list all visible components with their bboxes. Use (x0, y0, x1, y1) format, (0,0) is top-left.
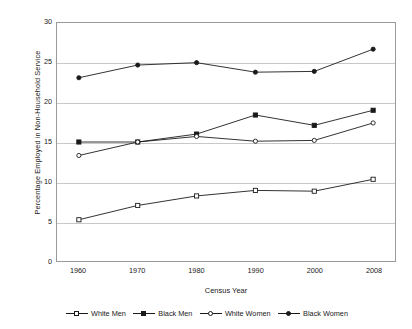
y-tick-label: 5 (30, 218, 52, 226)
x-tick-label: 1980 (176, 266, 216, 275)
legend-item-black-men[interactable]: Black Men (133, 309, 192, 318)
legend-marker-icon (66, 309, 88, 318)
y-tick-label: 0 (30, 258, 52, 266)
legend-item-black-women[interactable]: Black Women (278, 309, 348, 318)
data-point-marker (136, 63, 140, 67)
data-point-marker (371, 121, 375, 125)
y-tick-label: 15 (30, 138, 52, 146)
data-point-marker (371, 108, 375, 112)
data-point-marker (194, 194, 198, 198)
y-tick-label: 20 (30, 98, 52, 106)
y-axis-tick-labels: 051015202530 (26, 0, 52, 329)
legend-marker-icon (133, 309, 155, 318)
data-point-marker (136, 140, 140, 144)
data-point-marker (312, 123, 316, 127)
x-tick-label: 1960 (58, 266, 98, 275)
y-tick-label: 10 (30, 178, 52, 186)
data-point-marker (194, 134, 198, 138)
legend-marker-icon (200, 309, 222, 318)
data-point-marker (77, 218, 81, 222)
data-point-marker (312, 69, 316, 73)
series-line (79, 110, 373, 142)
legend-label: Black Women (303, 309, 348, 318)
x-tick-label: 1970 (117, 266, 157, 275)
series-line (79, 49, 373, 78)
y-tick-label: 30 (30, 18, 52, 26)
legend-marker-icon (278, 309, 300, 318)
data-point-marker (371, 177, 375, 181)
series-lines (57, 23, 395, 261)
data-point-marker (253, 139, 257, 143)
x-axis-tick-labels: 196019701980199020002008 (56, 266, 396, 280)
legend-label: Black Men (158, 309, 192, 318)
chart-legend: White MenBlack MenWhite WomenBlack Women (36, 303, 376, 323)
data-point-marker (253, 188, 257, 192)
legend-label: White Women (225, 309, 271, 318)
series-line (79, 123, 373, 156)
data-point-marker (136, 203, 140, 207)
x-axis-title: Census Year (56, 286, 396, 295)
data-point-marker (371, 47, 375, 51)
legend-item-white-men[interactable]: White Men (66, 309, 126, 318)
plot-area (56, 22, 396, 262)
data-point-marker (77, 76, 81, 80)
legend-item-white-women[interactable]: White Women (200, 309, 271, 318)
x-tick-label: 1990 (236, 266, 276, 275)
data-point-marker (77, 153, 81, 157)
data-point-marker (312, 138, 316, 142)
legend-label: White Men (91, 309, 126, 318)
data-point-marker (312, 189, 316, 193)
series-line (79, 179, 373, 219)
data-point-marker (253, 70, 257, 74)
x-tick-label: 2000 (295, 266, 335, 275)
line-chart: Percentage Employed in Non-Household Ser… (0, 0, 412, 329)
data-point-marker (77, 140, 81, 144)
x-tick-label: 2008 (354, 266, 394, 275)
data-point-marker (194, 61, 198, 65)
y-tick-label: 25 (30, 58, 52, 66)
data-point-marker (253, 113, 257, 117)
